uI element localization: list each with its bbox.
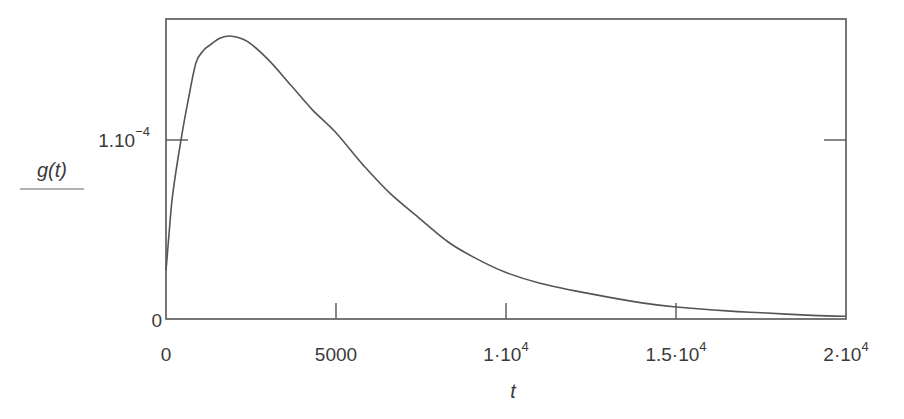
y-ticks: 01.10−4: [98, 124, 846, 331]
x-tick-label: 2·104: [823, 339, 868, 365]
plot-frame: [166, 19, 846, 319]
chart: 050001·1041.5·1042·104 01.10−4 t g(t): [0, 0, 904, 419]
series-line-g: [166, 36, 846, 316]
x-tick-label: 5000: [315, 344, 357, 365]
x-tick-label: 1·104: [483, 339, 528, 365]
y-axis-title: g(t): [37, 159, 67, 181]
y-tick-label: 0: [151, 310, 162, 331]
y-tick-label: 1.10−4: [98, 124, 150, 151]
x-tick-label: 0: [161, 344, 172, 365]
x-axis-title: t: [510, 380, 517, 402]
x-tick-label: 1.5·104: [645, 339, 706, 365]
